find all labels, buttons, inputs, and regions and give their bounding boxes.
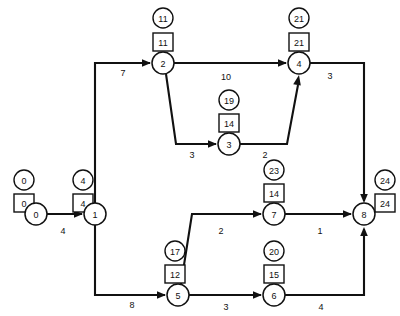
- edge-4-to-8: 3: [310, 63, 368, 203]
- edge-1-to-5-line: [95, 225, 165, 295]
- node-2-id: 2: [160, 59, 165, 69]
- node-4-id: 4: [296, 59, 301, 69]
- node-7[interactable]: 23 14 7: [263, 160, 285, 225]
- edge-4-to-8-arrowhead: [360, 194, 368, 203]
- node-0-id: 0: [33, 210, 38, 220]
- network-svg: 4 7 10 3 2 3: [0, 0, 400, 316]
- node-5-earliest-value: 12: [170, 270, 180, 280]
- edge-6-to-8: 4: [285, 227, 368, 312]
- edge-weight-3-4: 2: [262, 150, 267, 160]
- edge-5-to-7-line: [181, 214, 261, 284]
- node-6[interactable]: 20 15 6: [263, 241, 285, 306]
- node-3-earliest-value: 14: [224, 119, 234, 129]
- node-5[interactable]: 17 12 5: [165, 241, 189, 306]
- edge-0-to-1: 4: [47, 210, 83, 236]
- edge-1-to-2-arrowhead: [142, 59, 151, 67]
- edge-weight-5-6: 3: [223, 302, 228, 312]
- edge-weight-4-8: 3: [327, 71, 332, 81]
- edge-5-to-6: 3: [189, 291, 262, 312]
- node-0-latest-value: 0: [21, 176, 26, 186]
- node-2-earliest-value: 11: [158, 38, 167, 48]
- node-7-id: 7: [271, 210, 276, 220]
- edge-7-to-8: 1: [285, 210, 352, 236]
- node-4-earliest-value: 21: [294, 38, 304, 48]
- edge-3-to-4: 2: [240, 75, 301, 160]
- edge-weight-1-2: 7: [120, 68, 125, 78]
- node-1-id: 1: [92, 210, 97, 220]
- node-8-earliest-value: 24: [380, 199, 390, 209]
- edge-1-to-2: 7: [95, 59, 151, 203]
- edge-5-to-7-arrowhead: [253, 210, 262, 218]
- node-3-latest-value: 19: [224, 96, 234, 106]
- node-1-latest-value: 4: [80, 176, 85, 186]
- node-8-latest-value: 24: [380, 176, 390, 186]
- edge-3-to-4-line: [240, 85, 298, 144]
- edge-weight-5-7: 2: [218, 226, 223, 236]
- node-0-earliest-value: 0: [21, 199, 26, 209]
- edge-2-to-3-line: [166, 74, 216, 144]
- edge-4-to-8-line: [310, 63, 364, 201]
- network-diagram-canvas: 4 7 10 3 2 3: [0, 0, 400, 316]
- edge-3-to-4-arrowhead: [293, 75, 301, 86]
- node-6-id: 6: [271, 291, 276, 301]
- node-3[interactable]: 19 14 3: [218, 90, 240, 155]
- node-6-latest-value: 20: [269, 247, 279, 257]
- node-8[interactable]: 24 24 8: [353, 170, 395, 225]
- edge-weight-2-4: 10: [221, 72, 231, 82]
- edge-weight-0-1: 4: [60, 226, 65, 236]
- edge-weight-6-8: 4: [318, 302, 323, 312]
- node-5-id: 5: [175, 291, 180, 301]
- edge-6-to-8-line: [285, 229, 364, 295]
- edge-2-to-4-arrowhead: [278, 59, 287, 67]
- edge-1-to-5: 8: [95, 225, 166, 310]
- node-2[interactable]: 11 11 2: [152, 8, 174, 74]
- node-2-latest-value: 11: [158, 14, 167, 24]
- edge-1-to-5-arrowhead: [157, 291, 166, 299]
- node-1[interactable]: 4 4 1: [73, 170, 106, 225]
- node-7-earliest-value: 14: [269, 189, 279, 199]
- edge-5-to-7: 2: [181, 210, 262, 284]
- node-0[interactable]: 0 0 0: [14, 170, 47, 225]
- edge-weight-2-3: 3: [189, 150, 194, 160]
- edge-weight-7-8: 1: [317, 226, 322, 236]
- node-5-latest-value: 17: [170, 247, 180, 257]
- node-7-latest-value: 23: [269, 166, 279, 176]
- node-6-earliest-value: 15: [269, 270, 279, 280]
- edge-6-to-8-arrowhead: [360, 227, 368, 236]
- edge-2-to-4: 10: [174, 59, 287, 82]
- node-8-id: 8: [361, 210, 366, 220]
- node-4-latest-value: 21: [294, 14, 304, 24]
- edge-5-to-6-arrowhead: [253, 291, 262, 299]
- node-4[interactable]: 21 21 4: [288, 8, 310, 74]
- edge-7-to-8-arrowhead: [343, 210, 352, 218]
- node-1-earliest-value: 4: [80, 199, 85, 209]
- edge-2-to-3: 3: [166, 74, 217, 160]
- edge-2-to-3-arrowhead: [208, 140, 217, 148]
- edge-weight-1-5: 8: [129, 300, 134, 310]
- node-3-id: 3: [226, 140, 231, 150]
- edge-1-to-2-line: [95, 63, 150, 203]
